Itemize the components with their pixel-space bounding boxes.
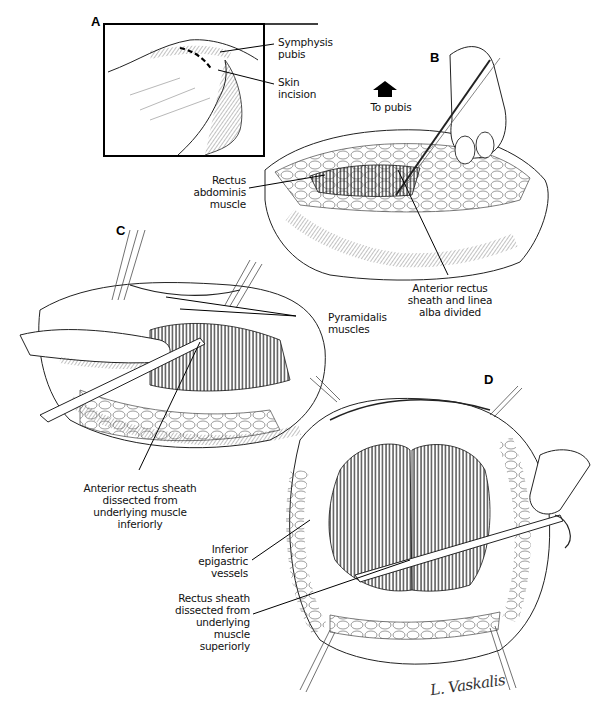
label-inferior-epigastric: Inferior epigastric vessels [190,543,248,579]
panel-d-letter: D [484,372,493,387]
surgical-illustration [0,0,603,715]
panel-b-letter: B [430,50,439,65]
label-line: Skin [278,76,316,88]
label-line: abdominis [180,186,246,198]
label-line: pubis [278,48,333,60]
label-line: muscle [180,198,246,210]
label-line: muscle [170,628,250,640]
label-d-sheath-dissected: Rectus sheath dissected from underlying … [170,592,250,652]
label-line: incision [278,88,316,100]
label-anterior-sheath-divided: Anterior rectus sheath and linea alba di… [402,282,498,318]
label-line: Anterior rectus [402,282,498,294]
panel-a-frame [104,24,264,156]
label-pyramidalis: Pyramidalis muscles [328,311,387,335]
label-c-sheath-dissected: Anterior rectus sheath dissected from un… [80,482,200,530]
label-to-pubis: To pubis [366,101,416,113]
label-line: dissected from [170,604,250,616]
panel-c-letter: C [116,223,125,238]
panel-c-drawing [20,230,325,448]
label-symphysis-pubis: Symphysis pubis [278,36,333,60]
label-line: inferiorly [80,518,200,530]
label-line: dissected from [80,494,200,506]
arrow-up-icon [373,81,397,97]
label-line: Symphysis [278,36,333,48]
label-line: alba divided [402,306,498,318]
label-line: epigastric [190,555,248,567]
label-skin-incision: Skin incision [278,76,316,100]
label-line: underlying muscle [80,506,200,518]
label-line: Rectus sheath [170,592,250,604]
label-rectus-abdominis: Rectus abdominis muscle [180,174,246,210]
label-line: Rectus [180,174,246,186]
label-line: Inferior [190,543,248,555]
label-line: superiorly [170,640,250,652]
label-line: vessels [190,567,248,579]
panel-a-letter: A [91,14,100,29]
label-line: Anterior rectus sheath [80,482,200,494]
label-line: Pyramidalis [328,311,387,323]
label-line: sheath and linea [402,294,498,306]
label-line: underlying [170,616,250,628]
panel-d-drawing [290,376,590,692]
label-line: muscles [328,323,387,335]
